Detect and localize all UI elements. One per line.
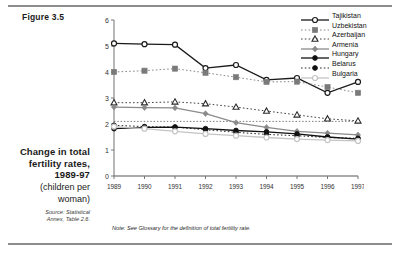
figure-note: Note: See Glossary for the definition of… <box>112 225 251 231</box>
data-point-open-circle <box>264 135 269 140</box>
y-tick-label: 5 <box>105 43 109 50</box>
legend-item-uzbekistan[interactable]: Uzbekistan <box>300 21 396 31</box>
legend-key-icon <box>300 30 330 40</box>
legend-key-icon <box>300 21 330 31</box>
caption-unit-line-2: woman) <box>6 194 90 205</box>
legend-item-bulgaria[interactable]: Bulgaria <box>300 69 396 79</box>
legend-label: Bulgaria <box>332 69 358 79</box>
legend-label: Belarus <box>332 59 356 69</box>
legend-label: Hungary <box>332 49 358 59</box>
legend-item-azerbaijan[interactable]: Azerbaijan <box>300 30 396 40</box>
data-point-open-triangle <box>142 100 148 105</box>
y-tick-label: 0 <box>105 173 109 180</box>
data-point-filled-square <box>172 66 177 71</box>
legend-label: Uzbekistan <box>332 21 367 31</box>
data-point-open-circle <box>356 79 361 84</box>
source-line-2: Annex, Table 2.6. <box>47 216 90 222</box>
data-point-filled-diamond <box>203 111 208 117</box>
figure-page: Figure 3.5 Change in total fertility rat… <box>0 0 400 253</box>
legend-label: Azerbaijan <box>332 30 365 40</box>
data-point-open-circle <box>325 138 330 143</box>
source-line-1: Source: Statistical <box>45 209 90 215</box>
data-point-filled-square <box>233 75 238 80</box>
figure-caption: Change in total fertility rates, 1989-97… <box>6 146 90 223</box>
x-tick-label: 1994 <box>259 183 274 190</box>
data-point-filled-square <box>264 79 269 84</box>
data-point-open-circle <box>173 42 178 47</box>
data-point-open-triangle <box>294 112 300 117</box>
bottom-divider <box>8 243 392 245</box>
figure-number: Figure 3.5 <box>22 12 64 22</box>
data-point-filled-square <box>325 84 330 89</box>
data-point-open-circle <box>112 41 117 46</box>
caption-line-3: 1989-97 <box>6 169 90 181</box>
data-point-open-triangle <box>325 116 331 121</box>
data-point-open-triangle <box>355 118 361 123</box>
y-tick-label: 2 <box>105 121 109 128</box>
data-point-filled-diamond <box>142 105 147 111</box>
caption-line-2: fertility rates, <box>6 158 90 170</box>
data-point-open-circle <box>203 66 208 71</box>
data-point-open-circle <box>295 137 300 142</box>
top-divider <box>8 5 392 7</box>
data-point-filled-diamond <box>172 105 177 111</box>
data-point-filled-square <box>203 70 208 75</box>
legend-item-tajikistan[interactable]: Tajikistan <box>300 11 396 21</box>
data-point-open-circle <box>112 124 117 129</box>
data-point-open-circle <box>234 62 239 67</box>
data-point-filled-square <box>111 69 116 74</box>
legend-item-hungary[interactable]: Hungary <box>300 49 396 59</box>
data-point-filled-square <box>355 90 360 95</box>
data-point-open-circle <box>325 90 330 95</box>
data-point-open-circle <box>313 75 318 80</box>
data-point-open-circle <box>234 133 239 138</box>
data-point-open-circle <box>203 131 208 136</box>
legend-label: Armenia <box>332 40 358 50</box>
data-point-open-triangle <box>233 104 239 109</box>
legend-item-armenia[interactable]: Armenia <box>300 40 396 50</box>
x-tick-label: 1990 <box>137 183 152 190</box>
x-tick-label: 1997 <box>351 183 364 190</box>
caption-unit-line-1: (children per <box>6 182 90 193</box>
data-point-open-circle <box>142 126 147 131</box>
x-tick-label: 1992 <box>198 183 213 190</box>
y-tick-label: 6 <box>105 17 109 24</box>
legend-key-icon <box>300 11 330 21</box>
data-point-open-triangle <box>172 99 178 104</box>
x-tick-label: 1996 <box>320 183 335 190</box>
y-tick-label: 3 <box>105 95 109 102</box>
data-point-open-triangle <box>264 108 270 113</box>
legend-key-icon <box>300 49 330 59</box>
x-tick-label: 1995 <box>290 183 305 190</box>
data-point-open-circle <box>173 129 178 134</box>
legend-key-icon <box>300 59 330 69</box>
y-tick-label: 4 <box>105 69 109 76</box>
legend-label: Tajikistan <box>332 11 361 21</box>
data-point-open-circle <box>142 42 147 47</box>
y-tick-label: 1 <box>105 147 109 154</box>
legend-key-icon <box>300 40 330 50</box>
caption-line-1: Change in total <box>6 146 90 158</box>
data-point-open-circle <box>356 138 361 143</box>
data-point-open-triangle <box>203 101 209 106</box>
x-tick-label: 1989 <box>107 183 122 190</box>
legend-item-belarus[interactable]: Belarus <box>300 59 396 69</box>
x-tick-label: 1991 <box>168 183 183 190</box>
legend-key-icon <box>300 69 330 79</box>
data-point-filled-square <box>142 68 147 73</box>
data-point-filled-square <box>294 79 299 84</box>
data-point-filled-diamond <box>233 120 238 126</box>
caption-source: Source: Statistical Annex, Table 2.6. <box>6 209 90 224</box>
chart-legend: TajikistanUzbekistanAzerbaijanArmeniaHun… <box>300 11 396 78</box>
x-tick-label: 1993 <box>229 183 244 190</box>
